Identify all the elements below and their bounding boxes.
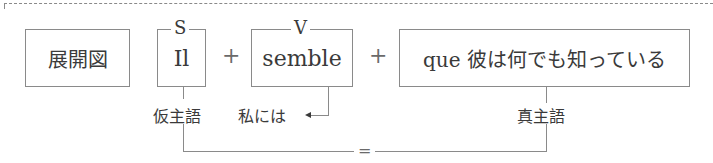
- verb-box: V semble: [251, 29, 353, 87]
- arrow-left-icon: [305, 112, 311, 118]
- verb-role-label: V: [291, 19, 310, 37]
- equals-sign: =: [354, 141, 375, 160]
- connector-line: [311, 115, 329, 116]
- subject-box: S Il: [157, 29, 206, 87]
- expansion-box: 展開図: [25, 29, 130, 87]
- verb-text: semble: [262, 46, 341, 71]
- to-me-label: 私には: [238, 103, 286, 127]
- bracket-line: [546, 124, 547, 152]
- subject-text: Il: [174, 46, 190, 71]
- clause-box: que 彼は何でも知っている: [399, 29, 690, 87]
- connector-line: [328, 87, 329, 115]
- true-subject-label: 真主語: [517, 103, 565, 127]
- clause-text: que 彼は何でも知っている: [423, 44, 666, 73]
- subject-role-label: S: [171, 19, 189, 37]
- plus-sign: +: [222, 43, 240, 68]
- dashed-border: [4, 3, 713, 4]
- bracket-line: [183, 124, 184, 151]
- provisional-subject-label: 仮主語: [153, 103, 201, 127]
- connector-line: [183, 87, 184, 99]
- plus-sign: +: [369, 43, 387, 68]
- expansion-label: 展開図: [48, 44, 108, 73]
- dashed-border-corner: [4, 3, 5, 9]
- connector-line: [546, 87, 547, 103]
